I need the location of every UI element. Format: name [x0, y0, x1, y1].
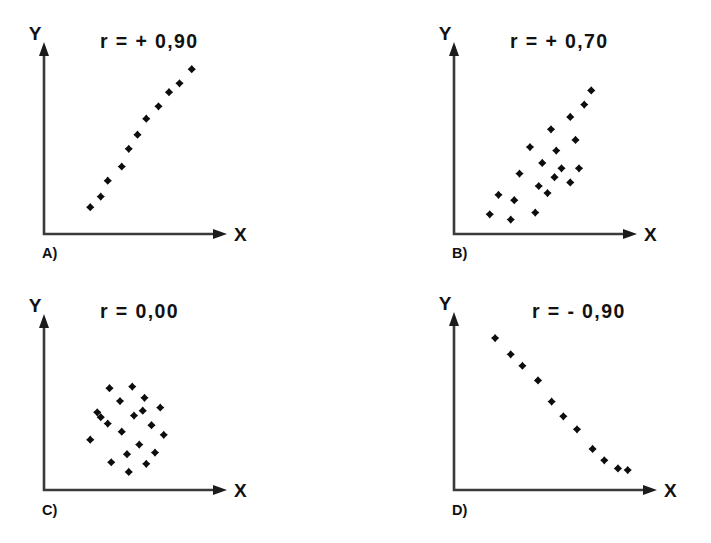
panel-c-axis-lines [44, 324, 216, 490]
data-point [104, 177, 112, 185]
panel-d-points [491, 334, 632, 474]
panel-a: Y X r = + 0,90 A) [0, 0, 355, 271]
data-point [142, 460, 150, 468]
panel-a-y-axis-label: Y [29, 23, 42, 44]
panel-c-letter: C) [42, 502, 57, 518]
data-point [547, 125, 555, 133]
data-point [125, 145, 133, 153]
panel-b: Y X r = + 0,70 B) [356, 0, 711, 271]
data-point [566, 178, 574, 186]
data-point [97, 193, 105, 201]
panel-b-points [486, 86, 596, 223]
data-point [580, 100, 588, 108]
data-point [123, 450, 131, 458]
panel-d-letter: D) [452, 502, 467, 518]
data-point [154, 102, 162, 110]
panel-d-y-arrowhead [449, 312, 459, 326]
data-point [624, 466, 632, 474]
panel-b-r-label: r = + 0,70 [510, 30, 609, 52]
data-point [535, 182, 543, 190]
data-point [614, 464, 622, 472]
panel-d-r-label: r = - 0,90 [532, 300, 626, 322]
data-point [548, 398, 556, 406]
data-point [589, 445, 597, 453]
data-point [151, 448, 159, 456]
data-point [526, 143, 534, 151]
panel-c: Y X r = 0,00 C) [0, 272, 355, 543]
panel-c-y-arrowhead [39, 314, 49, 328]
panel-b-y-axis-label: Y [439, 23, 452, 44]
panel-b-axes [449, 42, 637, 239]
data-point [557, 164, 565, 172]
data-point [552, 146, 560, 154]
panel-b-plot: Y X r = + 0,70 B) [356, 0, 711, 271]
panel-c-x-arrowhead [213, 485, 227, 495]
data-point [188, 65, 196, 73]
data-point [118, 162, 126, 170]
data-point [156, 403, 164, 411]
panel-a-x-axis-label: X [234, 224, 247, 245]
data-point [105, 384, 113, 392]
panel-a-points [86, 65, 196, 211]
panel-a-letter: A) [42, 245, 57, 261]
data-point [142, 115, 150, 123]
panel-c-r-label: r = 0,00 [100, 300, 179, 322]
panel-d-axis-lines [454, 322, 646, 490]
data-point [107, 458, 115, 466]
panel-d-y-axis-label: Y [439, 293, 452, 314]
data-point [550, 173, 558, 181]
panel-a-r-label: r = + 0,90 [100, 30, 199, 52]
data-point [510, 196, 518, 204]
data-point [534, 376, 542, 384]
panel-b-x-axis-label: X [644, 224, 657, 245]
panel-d-plot: Y X r = - 0,90 D) [356, 272, 711, 543]
data-point [573, 425, 581, 433]
panel-a-axes [39, 42, 227, 239]
panel-d-x-axis-label: X [664, 480, 677, 501]
data-point [104, 420, 112, 428]
data-point [86, 203, 94, 211]
data-point [571, 136, 579, 144]
panel-c-y-axis-label: Y [29, 295, 42, 316]
panel-a-plot: Y X r = + 0,90 A) [0, 0, 355, 271]
data-point [486, 210, 494, 218]
data-point [140, 394, 148, 402]
panel-b-y-arrowhead [449, 42, 459, 56]
data-point [165, 88, 173, 96]
data-point [147, 421, 155, 429]
data-point [538, 159, 546, 167]
data-point [128, 382, 136, 390]
panel-c-points [86, 382, 168, 476]
data-point [494, 191, 502, 199]
panel-d-x-arrowhead [643, 485, 657, 495]
data-point [118, 428, 126, 436]
data-point [531, 208, 539, 216]
data-point [507, 216, 515, 224]
data-point [507, 350, 515, 358]
panel-b-x-arrowhead [623, 229, 637, 239]
data-point [600, 456, 608, 464]
data-point [133, 131, 141, 139]
correlation-figure: Y X r = + 0,90 A) Y X r = + 0,70 B) [0, 0, 711, 543]
data-point [135, 440, 143, 448]
data-point [116, 397, 124, 405]
data-point [491, 334, 499, 342]
panel-c-x-axis-label: X [234, 480, 247, 501]
data-point [139, 407, 147, 415]
data-point [587, 86, 595, 94]
panel-c-plot: Y X r = 0,00 C) [0, 272, 355, 543]
data-point [543, 189, 551, 197]
data-point [175, 79, 183, 87]
panel-b-axis-lines [454, 52, 626, 234]
data-point [125, 468, 133, 476]
panel-a-y-arrowhead [39, 42, 49, 56]
data-point [515, 169, 523, 177]
data-point [518, 362, 526, 370]
data-point [160, 431, 168, 439]
panel-a-axis-lines [44, 52, 216, 234]
data-point [559, 412, 567, 420]
panel-a-x-arrowhead [213, 229, 227, 239]
data-point [86, 436, 94, 444]
data-point [130, 411, 138, 419]
panel-b-letter: B) [452, 245, 467, 261]
